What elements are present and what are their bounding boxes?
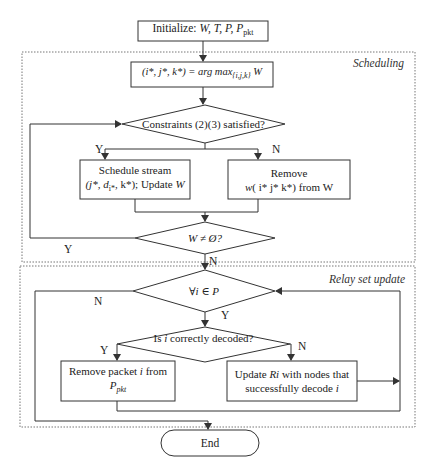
argmax-label: (i*, j*, k*) = arg max{i,j,k} W: [131, 62, 273, 87]
constraints-label: Constraints (2)(3) satisfied?: [122, 105, 285, 143]
w-yes-label: Y: [64, 243, 72, 255]
remove-packet-label: Remove packet i from Ppkt: [61, 361, 175, 401]
decoded-no-label: N: [298, 340, 306, 352]
w-nonempty-label: W ≠ Ø?: [135, 222, 275, 254]
w-no-label: N: [209, 255, 217, 267]
relay-region-label: Relay set update: [329, 273, 405, 285]
forall-no-label: N: [94, 295, 102, 307]
constraints-yes-label: Y: [95, 143, 103, 155]
forall-yes-label: Y: [221, 309, 229, 321]
scheduling-region-label: Scheduling: [353, 57, 404, 69]
init-label: Initialize: W, T, P, Ppkt: [138, 21, 268, 41]
decoded-label: Is i correctly decoded?: [117, 327, 290, 349]
forall-label: ∀i ∈ P: [133, 270, 275, 312]
end-label: End: [161, 430, 259, 456]
remove-w-label: Remove w( i* j* k*) from W: [228, 160, 350, 199]
constraints-no-label: N: [272, 143, 280, 155]
update-ri-label: Update Ri with nodes that successfully d…: [227, 361, 357, 401]
decoded-yes-label: Y: [100, 344, 108, 356]
schedule-label: Schedule stream (j*, di*, k*); Update W: [80, 160, 190, 199]
